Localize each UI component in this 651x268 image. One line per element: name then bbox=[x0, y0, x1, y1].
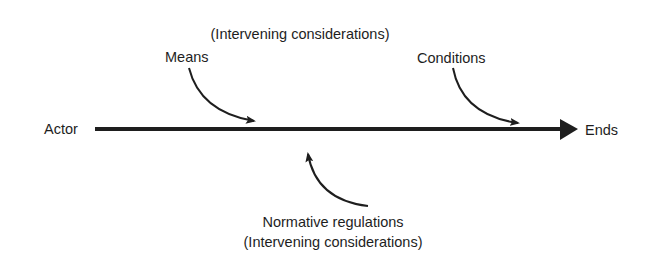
means-arrow bbox=[189, 68, 254, 121]
ends-label: Ends bbox=[585, 123, 618, 138]
bottom-intervening-label: (Intervening considerations) bbox=[244, 235, 423, 250]
normative-regulations-label: Normative regulations bbox=[262, 215, 403, 230]
top-intervening-label: (Intervening considerations) bbox=[211, 27, 390, 42]
ends-arrowhead bbox=[560, 119, 578, 140]
actor-label: Actor bbox=[44, 122, 78, 137]
normative-arrow bbox=[308, 154, 368, 206]
conditions-arrow bbox=[453, 68, 518, 123]
means-label: Means bbox=[165, 50, 209, 65]
conditions-label: Conditions bbox=[417, 51, 486, 66]
